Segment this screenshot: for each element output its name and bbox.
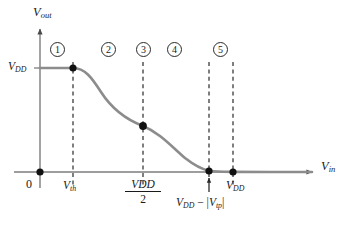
- region-marker-1: 1: [50, 42, 65, 57]
- origin-label: 0: [26, 178, 32, 190]
- x-tick-label-vth: Vth: [63, 180, 76, 192]
- marker-origin: [36, 168, 43, 175]
- x-tick-label-vdd-minus-vtp: VDD − |Vtp|: [176, 197, 224, 209]
- x-tick-label-vdd-over-2: VDD 2: [125, 178, 161, 205]
- figure-root: Vout Vin 0 VDD Vth VDD 2 VDD − |Vtp| VDD…: [0, 0, 354, 235]
- marker-vdd-half: [139, 122, 147, 130]
- region-marker-2: 2: [101, 42, 116, 57]
- marker-vdd-minus-vtp: [205, 167, 212, 174]
- y-axis-label: Vout: [33, 6, 52, 19]
- y-tick-label-vdd: VDD: [8, 61, 26, 73]
- x-axis-label: Vin: [321, 160, 335, 173]
- marker-vdd: [229, 168, 236, 175]
- x-tick-label-vdd: VDD: [226, 180, 244, 192]
- fraction-numerator: VDD: [125, 178, 161, 192]
- region-marker-5: 5: [213, 42, 228, 57]
- region-marker-4: 4: [167, 42, 182, 57]
- marker-vth: [69, 64, 76, 71]
- region-marker-3: 3: [136, 42, 151, 57]
- fraction-denominator: 2: [125, 192, 161, 205]
- vtc-curve: [40, 68, 312, 172]
